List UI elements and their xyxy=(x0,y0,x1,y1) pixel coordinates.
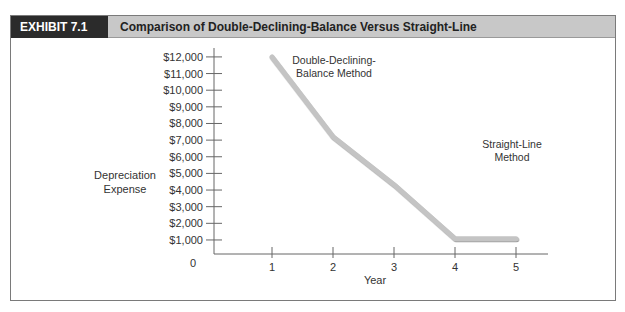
sl-annotation: Straight-Line xyxy=(482,138,542,150)
sl-annotation-line2: Method xyxy=(494,151,529,163)
ddb-annotation: Double-Declining- xyxy=(292,54,376,66)
y-tick-label: $1,000 xyxy=(169,234,203,246)
x-tick-label: 1 xyxy=(269,261,275,273)
y-tick-label: $3,000 xyxy=(169,201,203,213)
x-tick-label: 3 xyxy=(391,261,397,273)
y-tick-label: $5,000 xyxy=(169,167,203,179)
y-tick-label: $8,000 xyxy=(169,117,203,129)
x-tick-label: 2 xyxy=(330,261,336,273)
x-tick-label: 5 xyxy=(513,261,519,273)
ddb-series xyxy=(272,57,516,239)
x-axis-label: Year xyxy=(364,274,387,286)
y-tick-label: $10,000 xyxy=(163,84,203,96)
y-axis-label-line2: Expense xyxy=(104,183,147,195)
y-tick-label: $7,000 xyxy=(169,134,203,146)
y-tick-label: $12,000 xyxy=(163,51,203,63)
y-tick-label: $9,000 xyxy=(169,101,203,113)
y-tick-label: $2,000 xyxy=(169,217,203,229)
ddb-annotation-line2: Balance Method xyxy=(296,67,372,79)
y-tick-label: $6,000 xyxy=(169,151,203,163)
y-tick-label: 0 xyxy=(190,257,196,269)
x-axis: 12345 xyxy=(214,247,548,273)
y-tick-label: $11,000 xyxy=(164,68,203,80)
depreciation-chart: 0$1,000$2,000$3,000$4,000$5,000$6,000$7,… xyxy=(0,0,625,312)
y-axis-label: Depreciation xyxy=(94,169,156,181)
y-axis: 0$1,000$2,000$3,000$4,000$5,000$6,000$7,… xyxy=(163,48,222,269)
x-tick-label: 4 xyxy=(452,261,458,273)
y-tick-label: $4,000 xyxy=(169,184,203,196)
